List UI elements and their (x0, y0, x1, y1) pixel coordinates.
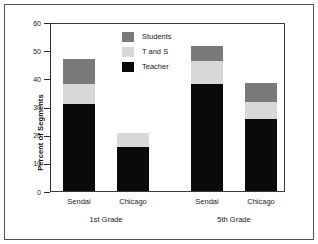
y-tick-label: 40 (0, 76, 41, 83)
y-tick-label: 60 (0, 20, 41, 27)
x-tick-label-chicago-grade1: Chicago (105, 197, 161, 206)
legend-label: Students (142, 32, 172, 42)
bar-sendai-grade1[interactable] (63, 59, 95, 191)
bar-chicago-grade5[interactable] (245, 83, 277, 191)
bar-segment-teacher (245, 119, 277, 191)
y-tick-label: 50 (0, 48, 41, 55)
legend-swatch-icon (122, 32, 134, 42)
y-tick-mark (44, 79, 50, 80)
legend-item-t-and-s[interactable]: T and S (122, 45, 218, 58)
bar-segment-teacher (117, 147, 149, 191)
legend-item-teacher[interactable]: Teacher (122, 60, 218, 73)
chart-figure: Percent of Segments 0102030405060 Studen… (0, 0, 318, 244)
y-tick-mark (44, 136, 50, 137)
legend-swatch-icon (122, 62, 134, 72)
y-tick-mark (44, 108, 50, 109)
x-group-label-grade5: 5th Grade (189, 215, 279, 224)
y-tick-mark (44, 164, 50, 165)
y-tick-label: 0 (0, 189, 41, 196)
bar-segment-teacher (191, 84, 223, 191)
y-tick-label: 10 (0, 160, 41, 167)
x-tick-label-chicago-grade5: Chicago (233, 197, 289, 206)
y-tick-label: 30 (0, 104, 41, 111)
chart-legend: StudentsT and STeacher (122, 30, 218, 75)
y-tick-mark (44, 51, 50, 52)
legend-swatch-icon (122, 47, 134, 57)
y-tick-label: 20 (0, 132, 41, 139)
y-tick-mark (44, 192, 50, 193)
y-tick-mark (44, 23, 50, 24)
bar-segment-students (245, 83, 277, 103)
legend-label: Teacher (142, 62, 169, 72)
bar-segment-t-and-s (117, 133, 149, 147)
legend-item-students[interactable]: Students (122, 30, 218, 43)
bar-chicago-grade1[interactable] (117, 133, 149, 191)
x-tick-label-sendai-grade5: Sendai (179, 197, 235, 206)
bar-segment-students (63, 59, 95, 84)
bar-segment-t-and-s (63, 84, 95, 104)
x-group-label-grade1: 1st Grade (61, 215, 151, 224)
bar-segment-teacher (63, 104, 95, 191)
bar-segment-t-and-s (245, 102, 277, 119)
x-tick-label-sendai-grade1: Sendai (51, 197, 107, 206)
legend-label: T and S (142, 47, 168, 57)
y-axis-ticks: 0102030405060 (0, 0, 50, 244)
